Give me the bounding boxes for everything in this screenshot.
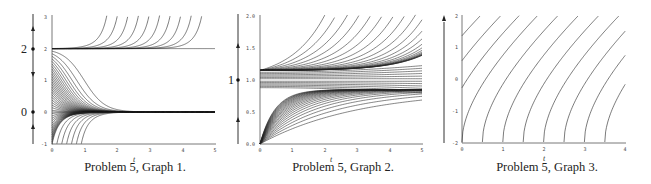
svg-text:-2: -2: [452, 140, 458, 146]
graph-1: 2 0 3 2 1 0 -1 0 1 2 3 4 5 t: [21, 14, 217, 164]
svg-text:5: 5: [420, 147, 423, 153]
solution-curve: [260, 90, 422, 144]
solution-curve: [260, 90, 422, 144]
arrow-up-icon: [442, 15, 446, 21]
solution-curve: [52, 16, 138, 49]
svg-text:4: 4: [623, 146, 626, 152]
solution-curve: [260, 90, 422, 144]
solution-curve: [52, 16, 117, 48]
svg-text:1: 1: [83, 147, 86, 153]
svg-text:1: 1: [44, 77, 47, 83]
solution-curve: [260, 44, 422, 70]
svg-text:0: 0: [44, 109, 47, 115]
solution-curve: [605, 84, 625, 142]
solution-curve: [52, 112, 215, 142]
caption-graph-1: Problem 5, Graph 1.: [35, 160, 235, 175]
svg-text:3: 3: [583, 146, 586, 152]
solution-curve: [260, 90, 422, 144]
svg-text:0.5: 0.5: [246, 109, 255, 115]
svg-text:4: 4: [181, 147, 184, 153]
solution-curve: [260, 90, 422, 144]
solution-curve: [260, 90, 422, 144]
svg-text:0: 0: [258, 147, 261, 153]
caption-graph-3: Problem 5, Graph 3.: [447, 160, 647, 175]
solution-curve: [52, 112, 215, 128]
solution-curve: [52, 112, 215, 140]
figure-canvas: 2 0 3 2 1 0 -1 0 1 2 3 4 5 t 1 2.0: [0, 0, 651, 184]
svg-text:3: 3: [44, 14, 47, 20]
arrow-up-icon: [31, 124, 35, 129]
solution-curve: [52, 16, 107, 49]
arrow-up-icon: [236, 43, 240, 48]
solution-curve: [57, 112, 215, 144]
svg-text:0: 0: [460, 146, 463, 152]
svg-text:2: 2: [323, 147, 326, 153]
solution-curve: [260, 17, 382, 71]
svg-text:4: 4: [388, 147, 391, 153]
solution-curve: [52, 16, 191, 49]
phase-label-2: 2: [21, 42, 27, 56]
svg-text:0: 0: [50, 147, 53, 153]
svg-text:2: 2: [542, 146, 545, 152]
phase-label-0: 0: [21, 105, 27, 119]
svg-text:1.0: 1.0: [246, 77, 255, 83]
svg-text:2: 2: [44, 46, 47, 52]
solution-curve: [72, 112, 215, 144]
solution-curve: [52, 17, 128, 49]
svg-text:-1: -1: [41, 141, 47, 147]
svg-text:1.5: 1.5: [246, 45, 255, 51]
svg-text:0: 0: [455, 76, 458, 82]
caption-graph-2: Problem 5, Graph 2.: [243, 160, 443, 175]
svg-text:5: 5: [213, 147, 216, 153]
phase-label-1: 1: [228, 73, 234, 87]
svg-text:2: 2: [455, 13, 458, 19]
solution-curve: [564, 31, 625, 142]
solution-curve: [584, 55, 625, 142]
svg-text:-1: -1: [452, 108, 458, 114]
solution-curve: [462, 16, 500, 61]
solution-curve: [62, 112, 215, 144]
solution-curve: [260, 18, 335, 71]
solution-curve: [81, 112, 215, 144]
equilibrium-dot: [31, 47, 35, 51]
equilibrium-dot: [236, 78, 240, 82]
solution-curve: [52, 51, 215, 112]
solution-curve: [260, 16, 359, 71]
svg-text:2.0: 2.0: [246, 13, 255, 19]
solution-curve: [52, 67, 215, 112]
arrow-up-icon: [31, 26, 35, 31]
arrow-down-icon: [31, 72, 35, 77]
svg-text:3: 3: [148, 147, 151, 153]
solution-curve: [260, 91, 422, 144]
solution-curve: [52, 112, 215, 135]
solution-curve: [67, 112, 215, 144]
solution-curve: [52, 112, 215, 137]
graph-3: 2 1 0 -1 -2 0 1 2 3 4 t: [442, 13, 627, 163]
solution-curve: [52, 87, 215, 112]
solution-curve: [52, 59, 215, 112]
svg-text:1: 1: [501, 146, 504, 152]
svg-text:0.0: 0.0: [246, 141, 255, 147]
solution-curve: [260, 83, 422, 84]
graph-2: 1 2.0 1.5 1.0 0.5 0.0 0 1 2 3 4 5 t: [228, 13, 424, 164]
svg-text:3: 3: [355, 147, 358, 153]
solution-curve: [260, 15, 325, 70]
solution-curve: [52, 16, 170, 48]
arrow-up-icon: [236, 117, 240, 122]
svg-text:1: 1: [290, 147, 293, 153]
svg-text:1: 1: [455, 44, 458, 50]
svg-text:2: 2: [115, 147, 118, 153]
solution-curve: [462, 16, 480, 36]
equilibrium-dot: [31, 110, 35, 114]
solution-curve: [52, 17, 149, 49]
